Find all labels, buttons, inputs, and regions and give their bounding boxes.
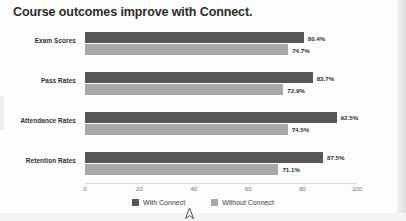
legend-label: Without Connect	[222, 199, 274, 206]
category-label: Retention Rates	[26, 157, 76, 164]
page-bottom-edge	[0, 213, 406, 221]
page-left-edge	[0, 96, 4, 130]
page-right-edge	[397, 0, 406, 221]
chart-title: Course outcomes improve with Connect.	[13, 5, 252, 19]
bar-value-label: 92.5%	[341, 114, 359, 121]
plot-area: Exam Scores80.4%74.7%Pass Rates83.7%72.9…	[85, 24, 357, 183]
legend-item: With Connect	[132, 199, 185, 206]
bar-without-connect: 72.9%	[85, 84, 283, 95]
bar-value-label: 72.9%	[287, 86, 305, 93]
bar-group: Pass Rates83.7%72.9%	[85, 72, 357, 95]
bar-value-label: 80.4%	[308, 34, 326, 41]
bar-with-connect: 87.5%	[85, 152, 323, 163]
chart-legend: With ConnectWithout Connect	[0, 199, 406, 206]
bar-value-label: 74.5%	[292, 126, 310, 133]
x-tick-label: 40	[190, 186, 197, 192]
bar-with-connect: 83.7%	[85, 72, 313, 83]
bar-group: Retention Rates87.5%71.1%	[85, 152, 357, 175]
x-tick-label: 60	[245, 186, 252, 192]
bar-without-connect: 74.7%	[85, 44, 288, 55]
bar-group: Attendance Rates92.5%74.5%	[85, 112, 357, 135]
bar-group: Exam Scores80.4%74.7%	[85, 32, 357, 55]
bar-value-label: 74.7%	[292, 46, 310, 53]
category-label: Exam Scores	[35, 37, 76, 44]
bar-without-connect: 74.5%	[85, 124, 288, 135]
category-label: Pass Rates	[41, 77, 76, 84]
category-label: Attendance Rates	[20, 117, 76, 124]
bar-value-label: 83.7%	[317, 74, 335, 81]
x-tick-label: 100	[352, 186, 362, 192]
chart-screenshot: Course outcomes improve with Connect. Ex…	[0, 0, 406, 221]
x-tick-label: 80	[299, 186, 306, 192]
bar-without-connect: 71.1%	[85, 164, 278, 175]
x-tick-label: 0	[83, 186, 86, 192]
x-tick-label: 20	[136, 186, 143, 192]
bar-with-connect: 80.4%	[85, 32, 304, 43]
bar-value-label: 71.1%	[282, 166, 300, 173]
x-axis-line	[85, 183, 357, 184]
legend-swatch	[132, 199, 139, 206]
bar-with-connect: 92.5%	[85, 112, 337, 123]
bar-value-label: 87.5%	[327, 154, 345, 161]
legend-label: With Connect	[143, 199, 185, 206]
legend-swatch	[211, 199, 218, 206]
mouse-pointer-icon	[185, 205, 194, 218]
legend-item: Without Connect	[211, 199, 274, 206]
